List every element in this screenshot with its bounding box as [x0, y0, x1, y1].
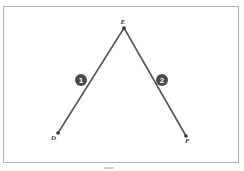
- label-e: E: [120, 18, 126, 26]
- caption-fragment: [104, 167, 114, 169]
- figure-caption-cutoff: [104, 165, 140, 171]
- marker-1: 1: [75, 74, 87, 86]
- marker-1-label: 1: [79, 76, 84, 85]
- segment-ed: [58, 28, 124, 133]
- segment-ef: [124, 28, 186, 136]
- diagram-canvas: E D F 1 2: [0, 0, 244, 171]
- label-d: D: [50, 134, 56, 142]
- label-f: F: [185, 137, 190, 145]
- marker-2: 2: [156, 74, 168, 86]
- marker-2-label: 2: [160, 76, 165, 85]
- point-d: [56, 131, 60, 135]
- point-e: [122, 26, 126, 30]
